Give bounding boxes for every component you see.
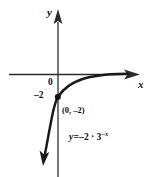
graph-canvas [0,0,152,177]
point-marker [55,94,61,100]
equation-label: y=–2 · 3–x [69,133,108,143]
equation-coefficient: –2 [79,132,89,142]
point-coordinate-label: (0, –2) [62,106,85,115]
y-axis-arrowhead [54,9,63,24]
origin-label: 0 [48,78,53,88]
equation-exponent: –x [102,130,109,137]
exponential-graph-figure: y x 0 –2 (0, –2) y=–2 · 3–x [0,0,152,177]
y-tick-label-neg2: –2 [34,91,44,101]
equation-dot: · [91,132,94,142]
y-axis-label: y [47,7,52,18]
exponential-curve [45,74,129,157]
x-axis-label: x [138,79,144,90]
